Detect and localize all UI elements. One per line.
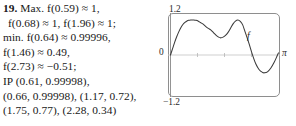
exercise-number: 19. <box>3 2 17 14</box>
y-axis-min-label: −1.2 <box>163 97 180 107</box>
solution-text: 19. Max. f(0.59) ≈ 1, f(0.68) ≈ 1, f(1.9… <box>3 1 153 118</box>
curve-name-label: f <box>247 30 250 41</box>
solution-line-7: (0.66, 0.99998), (1.17, 0.72), <box>3 89 153 104</box>
function-curve-plot <box>168 13 280 97</box>
origin-label: 0 <box>159 47 164 57</box>
solution-line-5: f(2.73) ≈ −0.51; <box>3 59 153 74</box>
solution-line-6: IP (0.61, 0.99998), <box>3 74 153 89</box>
solution-line-4: f(1.46) ≈ 0.49, <box>3 45 153 60</box>
solution-line-3: min. f(0.64) ≈ 0.99996, <box>3 30 153 45</box>
solution-line-2: f(0.68) ≈ 1, f(1.96) ≈ 1; <box>3 16 153 31</box>
graph-figure: 1.2 −1.2 0 π f <box>155 4 293 122</box>
y-axis-max-label: 1.2 <box>169 4 181 14</box>
answer-key-entry: 19. Max. f(0.59) ≈ 1, f(0.68) ≈ 1, f(1.9… <box>0 0 296 126</box>
solution-line-1: 19. Max. f(0.59) ≈ 1, <box>3 1 153 16</box>
solution-line-1-text: Max. f(0.59) ≈ 1, <box>20 2 99 14</box>
solution-line-8: (1.75, 0.77), (2.28, 0.34) <box>3 103 153 118</box>
x-axis-pi-label: π <box>282 48 287 58</box>
function-curve-path <box>171 20 279 73</box>
